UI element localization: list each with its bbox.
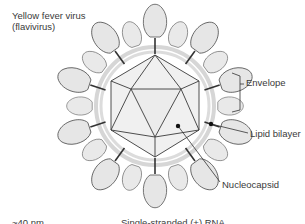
virus-illustration [0,0,305,224]
nucleocapsid-pointer-dot [176,124,180,128]
genome-caption: Single-stranded (+) RNA [121,217,225,224]
virus-title-line2: (flavivirus) [12,21,86,32]
virus-diagram: Yellow fever virus (flavivirus) Envelope… [0,0,305,224]
envelope-label: Envelope [246,77,286,88]
size-caption: ~40 nm [12,217,44,224]
virus-title-line1: Yellow fever virus [12,10,86,21]
lipid-bilayer-label: Lipid bilayer [250,128,301,139]
lipid-pointer-dot [209,122,213,126]
nucleocapsid-label: Nucleocapsid [222,179,279,190]
virus-title: Yellow fever virus (flavivirus) [12,10,86,32]
